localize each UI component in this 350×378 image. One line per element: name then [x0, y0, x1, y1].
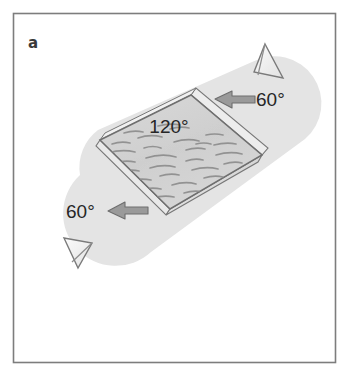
center-angle-label: 120°: [149, 116, 188, 137]
figure-panel: a: [0, 0, 350, 378]
panel-label: a: [28, 34, 38, 52]
top-right-angle-label: 60°: [256, 89, 285, 110]
shear-deformation-diagram: a: [0, 0, 350, 378]
bottom-left-angle-label: 60°: [66, 201, 95, 222]
